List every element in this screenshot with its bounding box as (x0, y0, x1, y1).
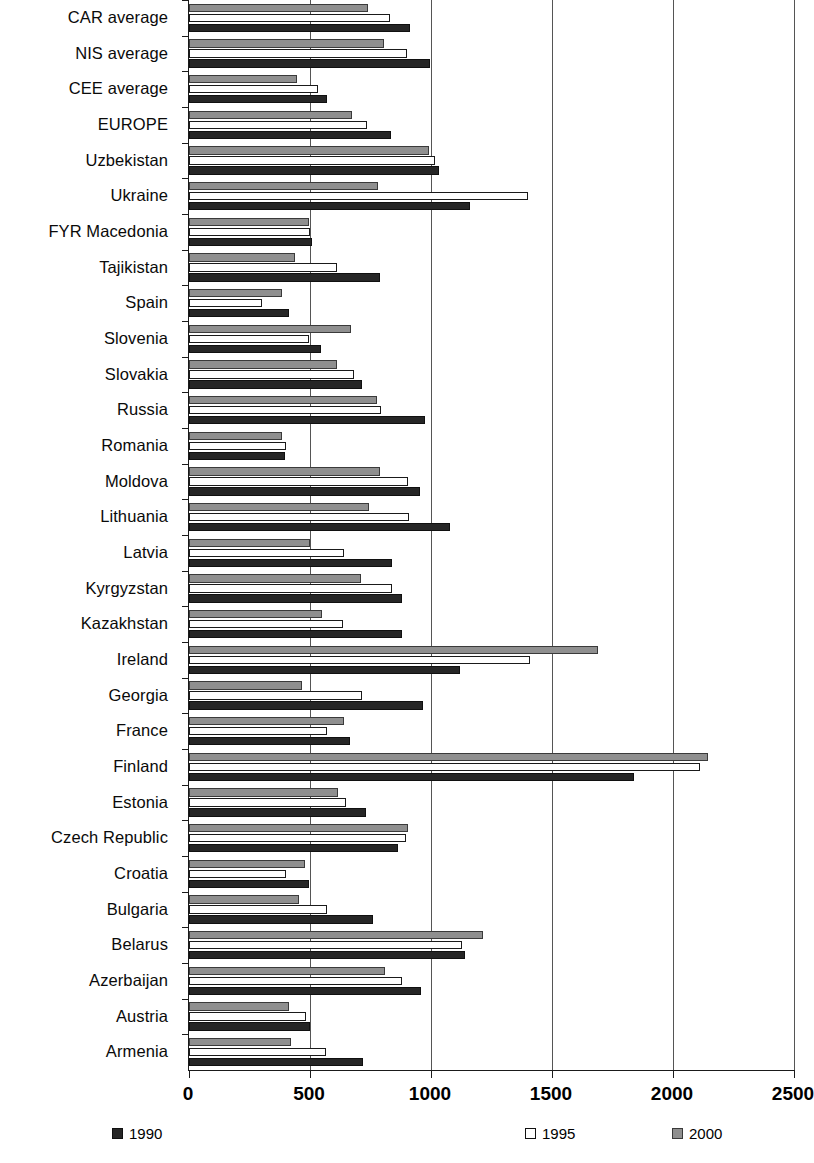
y-tick-17 (182, 606, 189, 607)
bar-2000-car-average (189, 4, 368, 13)
bar-1995-armenia (189, 1048, 326, 1057)
bar-1995-estonia (189, 798, 346, 807)
bar-1995-spain (189, 299, 262, 308)
category-label-armenia: Armenia (106, 1043, 168, 1060)
category-label-czech-republic: Czech Republic (51, 829, 168, 846)
y-tick-16 (182, 571, 189, 572)
bar-2000-kyrgyzstan (189, 574, 361, 583)
category-label-fyr-macedonia: FYR Macedonia (48, 223, 168, 240)
x-tick-0 (189, 1070, 190, 1078)
bar-2000-ireland (189, 646, 598, 655)
category-label-latvia: Latvia (123, 544, 168, 561)
bar-1990-cee-average (189, 95, 327, 104)
bar-1995-kazakhstan (189, 620, 343, 629)
legend-swatch-2000 (672, 1128, 683, 1139)
y-tick-24 (182, 856, 189, 857)
y-tick-9 (182, 321, 189, 322)
x-tick-500 (310, 1070, 311, 1078)
y-tick-29 (182, 1034, 189, 1035)
bar-1990-georgia (189, 701, 423, 710)
bar-1990-nis-average (189, 59, 430, 68)
category-label-slovenia: Slovenia (104, 330, 168, 347)
legend-entry-1995: 1995 (525, 1126, 575, 1141)
category-label-cee-average: CEE average (69, 80, 168, 97)
bar-2000-spain (189, 289, 282, 298)
y-tick-5 (182, 178, 189, 179)
x-tick-1500 (552, 1070, 553, 1078)
bar-1995-finland (189, 763, 700, 772)
y-tick-26 (182, 927, 189, 928)
bar-1990-slovakia (189, 380, 362, 389)
category-label-finland: Finland (113, 758, 168, 775)
bar-1995-austria (189, 1012, 306, 1021)
y-tick-4 (182, 143, 189, 144)
bar-2000-bulgaria (189, 895, 299, 904)
y-tick-20 (182, 713, 189, 714)
bar-2000-estonia (189, 788, 338, 797)
bar-2000-latvia (189, 539, 310, 548)
y-tick-6 (182, 214, 189, 215)
bar-1990-tajikistan (189, 273, 380, 282)
bar-1990-slovenia (189, 345, 321, 354)
bar-1995-cee-average (189, 85, 318, 94)
x-axis-tick-labels: 05001000150020002500 (0, 1084, 808, 1112)
category-label-car-average: CAR average (68, 9, 168, 26)
x-axis-label-0: 0 (183, 1084, 194, 1103)
category-label-kazakhstan: Kazakhstan (81, 615, 168, 632)
y-tick-28 (182, 999, 189, 1000)
category-label-nis-average: NIS average (75, 45, 168, 62)
y-tick-1 (182, 36, 189, 37)
legend-label-1995: 1995 (542, 1126, 575, 1141)
category-label-tajikistan: Tajikistan (99, 259, 168, 276)
category-label-azerbaijan: Azerbaijan (89, 972, 168, 989)
bar-1995-latvia (189, 549, 344, 558)
y-tick-25 (182, 892, 189, 893)
legend-entry-2000: 2000 (672, 1126, 722, 1141)
bar-2000-romania (189, 432, 282, 441)
bar-1990-lithuania (189, 523, 450, 532)
bar-1995-europe (189, 121, 367, 130)
bar-1990-austria (189, 1022, 310, 1031)
legend-entry-1990: 1990 (112, 1126, 162, 1141)
bar-2000-slovenia (189, 325, 351, 334)
bar-2000-czech-republic (189, 824, 408, 833)
bar-1995-france (189, 727, 327, 736)
y-tick-7 (182, 250, 189, 251)
bar-1990-czech-republic (189, 844, 398, 853)
bar-1995-belarus (189, 941, 462, 950)
y-tick-3 (182, 107, 189, 108)
category-label-croatia: Croatia (114, 865, 168, 882)
legend-label-1990: 1990 (129, 1126, 162, 1141)
bar-2000-lithuania (189, 503, 369, 512)
bar-1990-azerbaijan (189, 987, 421, 996)
bar-2000-fyr-macedonia (189, 218, 309, 227)
x-axis-label-2500: 2500 (772, 1084, 814, 1103)
category-label-bulgaria: Bulgaria (107, 901, 168, 918)
bar-1990-fyr-macedonia (189, 238, 312, 247)
bar-1995-czech-republic (189, 834, 406, 843)
bar-2000-finland (189, 753, 708, 762)
category-label-france: France (116, 722, 168, 739)
bar-2000-georgia (189, 681, 302, 690)
bar-1990-uzbekistan (189, 166, 439, 175)
y-tick-11 (182, 392, 189, 393)
y-tick-21 (182, 749, 189, 750)
category-label-estonia: Estonia (112, 794, 168, 811)
gridline-2000 (673, 0, 674, 1070)
gridline-2500 (794, 0, 795, 1070)
category-label-ukraine: Ukraine (110, 187, 168, 204)
category-label-moldova: Moldova (105, 473, 168, 490)
bar-1990-moldova (189, 487, 420, 496)
bar-1995-russia (189, 406, 381, 415)
category-label-kyrgyzstan: Kyrgyzstan (85, 580, 168, 597)
bar-1995-nis-average (189, 49, 407, 58)
bar-2000-moldova (189, 467, 380, 476)
bar-1990-estonia (189, 808, 366, 817)
bar-1990-latvia (189, 559, 392, 568)
chart-legend: 199019952000 (0, 1126, 808, 1152)
bar-2000-croatia (189, 860, 305, 869)
bar-1995-ukraine (189, 192, 528, 201)
bar-2000-france (189, 717, 344, 726)
bar-1990-belarus (189, 951, 465, 960)
y-tick-8 (182, 285, 189, 286)
